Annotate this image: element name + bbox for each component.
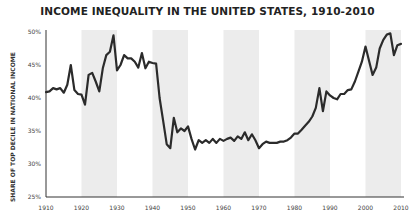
y-tick-label: 35% — [28, 127, 42, 134]
line-chart: 25%30%35%40%45%50% 191019201930194019501… — [0, 0, 415, 221]
x-tick-label: 1960 — [216, 204, 231, 211]
y-tick-label: 45% — [28, 61, 42, 68]
y-tick-label: 25% — [28, 193, 42, 200]
shaded-band — [224, 30, 260, 197]
y-axis-ticks: 25%30%35%40%45%50% — [28, 28, 42, 200]
y-tick-label: 50% — [28, 28, 42, 35]
x-tick-label: 1990 — [322, 204, 337, 211]
x-tick-label: 1920 — [74, 204, 89, 211]
x-tick-label: 1940 — [145, 204, 160, 211]
shaded-band — [153, 30, 189, 197]
shaded-band — [82, 30, 118, 197]
y-tick-label: 30% — [28, 160, 42, 167]
x-axis-ticks: 1910192019301940195019601970198019902000… — [38, 204, 408, 211]
x-tick-label: 1910 — [38, 204, 53, 211]
shaded-band — [366, 30, 402, 197]
x-tick-label: 2010 — [393, 204, 408, 211]
x-tick-label: 2000 — [358, 204, 373, 211]
y-tick-label: 40% — [28, 94, 42, 101]
x-tick-label: 1970 — [251, 204, 266, 211]
x-tick-label: 1950 — [180, 204, 195, 211]
shaded-band — [295, 30, 331, 197]
x-tick-label: 1980 — [287, 204, 302, 211]
x-tick-label: 1930 — [109, 204, 124, 211]
shaded-decade-bands — [82, 30, 402, 197]
